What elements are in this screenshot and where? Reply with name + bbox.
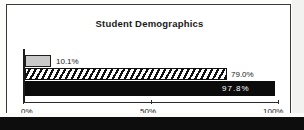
chart-frame: Student Demographics 10.1% 79.0% 97.8% 0…	[6, 4, 291, 114]
scan-right-margin	[292, 0, 304, 130]
x-axis-tick-100	[278, 100, 279, 104]
bar-value-label-series-3: 97.8%	[222, 84, 250, 93]
chart-page: Student Demographics 10.1% 79.0% 97.8% 0…	[0, 0, 304, 130]
bar-value-label-series-1: 10.1%	[56, 57, 79, 66]
chart-title: Student Demographics	[7, 18, 292, 29]
bar-series-2	[25, 68, 227, 80]
x-axis-tick-50	[151, 100, 152, 104]
bar-series-1	[25, 55, 51, 67]
x-axis-tick-0	[23, 100, 24, 104]
plot-area: 10.1% 79.0% 97.8% 0% 50% 100%	[23, 45, 287, 105]
bar-value-label-series-2: 79.0%	[231, 70, 254, 79]
scan-bottom-band	[0, 117, 304, 130]
